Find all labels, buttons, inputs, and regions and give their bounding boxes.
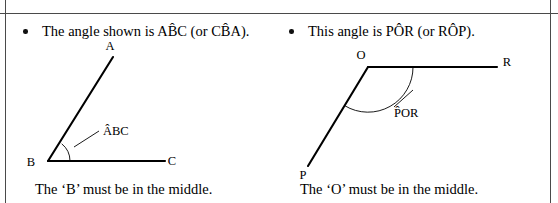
ray-op bbox=[308, 67, 368, 166]
label-point-r: R bbox=[503, 55, 512, 69]
right-angle-diagram: O P R P̂OR bbox=[0, 0, 558, 203]
leader-line-por bbox=[394, 90, 413, 107]
label-point-o: O bbox=[356, 48, 365, 62]
label-point-p: P bbox=[300, 168, 307, 182]
label-angle-por: P̂OR bbox=[394, 106, 419, 120]
worksheet-page: The angle shown is AB̂C (or CB̂A). The ‘… bbox=[0, 0, 558, 203]
